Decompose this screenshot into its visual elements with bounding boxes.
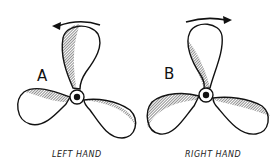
caption-left-hand: LEFT HAND bbox=[52, 150, 102, 159]
label-a: A bbox=[37, 67, 47, 85]
caption-right-hand: RIGHT HAND bbox=[185, 150, 241, 159]
propeller-left-hand bbox=[18, 22, 136, 138]
label-b: B bbox=[164, 65, 174, 83]
